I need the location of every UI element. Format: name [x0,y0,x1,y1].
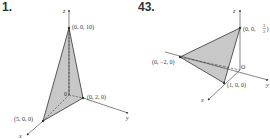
point-label: (1, 0, 0) [227,82,246,89]
figure-1: z y x 0 (0, 0, 10) (0, 2, 0) (5, 0, 0) [14,8,129,139]
y-axis-label: y [125,115,129,121]
x-axis [27,121,43,135]
y-axis-label: y [265,82,269,88]
point-dot [82,97,84,99]
origin-label: 0 [64,91,67,97]
x-axis-label: x [18,133,22,139]
z-axis-label: z [62,8,66,14]
shaded-plane [180,28,240,83]
point-label: (0, −2, 0) [152,59,174,66]
point-label: (0, 0, 10) [72,24,94,31]
point-label: (0, 2, 0) [87,94,106,101]
x-axis-label: x [200,97,204,103]
diagrams: z y x 0 (0, 0, 10) (0, 2, 0) (5, 0, 0) z… [0,0,270,139]
origin-label: O [241,64,246,70]
point-dot [239,27,241,29]
point-label-close: ) [267,26,269,33]
z-axis-label: z [232,8,236,14]
fraction-denominator: 2 [263,29,265,34]
shaded-plane [43,28,83,121]
point-dot [179,56,181,58]
point-dot [223,82,225,84]
point-dot [68,27,70,29]
point-label: (0, 0, [243,26,256,33]
point-dot [42,120,44,122]
point-label: (5, 0, 0) [14,116,33,123]
figure-43: z y x O (0, 0, 3 2 ) (0, −2, 0) (1, 0, 0… [152,8,269,103]
y-axis [83,98,128,113]
